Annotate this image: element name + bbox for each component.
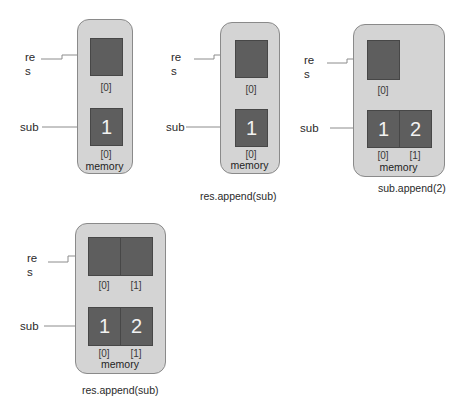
sub-cell-0: 1 [367,110,400,148]
res-index-0: [0] [88,280,120,291]
res-cell-0 [90,38,123,76]
variable-label-res-2: re s [171,50,181,78]
caption-2: res.append(sub) [200,190,276,202]
memory-label: memory [76,358,164,370]
sub-index-0: [0] [367,150,399,161]
res-index-1: [1] [120,280,152,291]
sub-index-1: [1] [399,150,431,161]
variable-label-res-1: re s [25,50,35,78]
sub-cell-1: 2 [120,307,153,346]
caption-4: res.append(sub) [82,384,158,396]
memory-panel-1: [0] 1 [0] memory [77,19,133,174]
memory-label: memory [78,160,131,172]
res-cell-0 [367,40,400,80]
res-index-0: [0] [367,85,399,96]
sub-cell-0: 1 [90,108,123,146]
sub-cell-0: 1 [88,307,121,346]
res-cell-0 [235,40,268,78]
variable-label-sub-1: sub [20,120,39,134]
variable-label-sub-4: sub [20,319,39,333]
sub-cell-0: 1 [235,109,268,147]
sub-index-0: [0] [90,149,122,160]
res-cell-0 [88,237,121,276]
variable-label-sub-3: sub [300,121,319,135]
memory-label: memory [221,159,278,171]
memory-label: memory [354,161,443,173]
memory-panel-4: [0] [1] 1 2 [0] [1] memory [75,223,166,374]
memory-panel-3: [0] 1 2 [0] [1] memory [353,24,445,177]
variable-label-res-4: re s [27,251,37,279]
res-index-0: [0] [235,84,267,95]
memory-panel-2: [0] 1 [0] memory [220,22,280,174]
sub-cell-1: 2 [399,110,432,148]
caption-3: sub.append(2) [378,182,446,194]
res-cell-1 [120,237,153,276]
variable-label-sub-2: sub [166,120,185,134]
variable-label-res-3: re s [304,53,314,81]
res-index-0: [0] [90,82,122,93]
